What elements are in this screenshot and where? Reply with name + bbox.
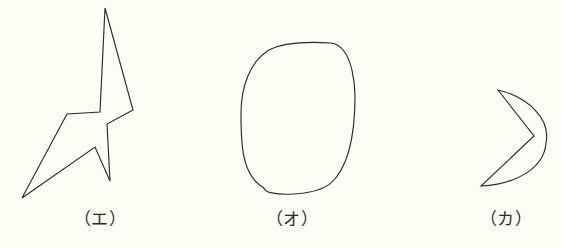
figure-ka-crescent-shape	[481, 90, 547, 186]
figure-o-caption: （オ）	[244, 205, 340, 230]
figure-e-caption: （エ）	[52, 205, 148, 230]
figure-o-oval-shape	[241, 42, 355, 194]
figure-ka-caption: （カ）	[458, 205, 554, 230]
figure-e-star-shape	[22, 8, 133, 198]
figure-sheet: （エ） （オ） （カ）	[0, 0, 561, 248]
